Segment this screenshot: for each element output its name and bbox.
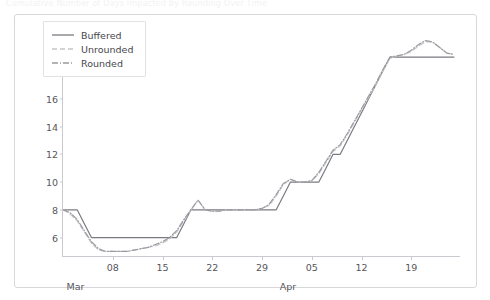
x-axis-month-label: Mar [67,281,85,292]
x-axis-tick-label: 15 [156,262,168,273]
x-axis-tick-label: 12 [355,262,367,273]
x-axis-tick-label: 08 [107,262,119,273]
y-axis-tick-mark [60,209,63,210]
x-axis-tick-mark [262,256,263,260]
x-axis-tick-mark [163,256,164,260]
chart-legend: Buffered Unrounded Rounded [43,21,146,77]
legend-swatch-buffered [52,30,74,40]
x-axis-month-label: Apr [280,281,296,292]
y-axis-tick-mark [60,126,63,127]
y-axis-tick-label: 14 [46,121,58,132]
series-line-buffered [63,57,454,237]
y-axis-tick-label: 12 [46,149,58,160]
x-axis-tick-label: 19 [405,262,417,273]
x-axis-tick-label: 29 [256,262,268,273]
x-axis-tick-label: 22 [206,262,218,273]
y-axis-tick-mark [60,237,63,238]
legend-label-rounded: Rounded [81,58,123,69]
y-axis-tick-label: 10 [46,177,58,188]
chart-card: 6810121416182008152229051219MarApr Buffe… [14,14,477,288]
x-axis-tick-mark [312,256,313,260]
y-axis-tick-label: 6 [52,232,58,243]
y-axis-tick-label: 16 [46,93,58,104]
legend-swatch-unrounded [52,44,74,54]
y-axis-tick-mark [60,98,63,99]
chart-screenshot: Cumulative Number of Days Impacted by Ro… [0,0,490,300]
x-axis-tick-mark [362,256,363,260]
legend-item: Buffered [52,28,133,42]
x-axis-tick-mark [212,256,213,260]
legend-label-buffered: Buffered [81,30,122,41]
legend-item: Unrounded [52,42,133,56]
legend-label-unrounded: Unrounded [81,44,133,55]
legend-item: Rounded [52,56,133,70]
x-axis-tick-label: 05 [306,262,318,273]
legend-swatch-rounded [52,58,74,68]
y-axis-tick-mark [60,182,63,183]
y-axis-tick-label: 8 [52,204,58,215]
x-axis-tick-mark [113,256,114,260]
y-axis-tick-mark [60,154,63,155]
top-caption: Cumulative Number of Days Impacted by Ro… [6,0,476,9]
x-axis-tick-mark [411,256,412,260]
